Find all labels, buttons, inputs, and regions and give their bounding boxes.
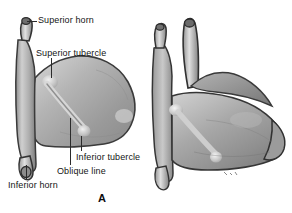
panel-a: Superior horn Superior tubercle Inferior… — [0, 0, 146, 213]
far-inferior-horn — [155, 166, 169, 190]
label-superior-horn: Superior horn — [38, 15, 94, 26]
lamina-highlight — [115, 109, 133, 123]
leader-oblique-line — [70, 118, 71, 165]
leader-inferior-horn — [26, 165, 27, 179]
far-posterior-border — [153, 45, 174, 181]
far-superior-horn-tip — [156, 24, 164, 30]
panel-letter-a: A — [98, 192, 106, 204]
near-lamina-highlight — [230, 112, 262, 128]
label-oblique-line: Oblique line — [57, 166, 106, 177]
leader-superior-tubercle — [51, 58, 52, 78]
label-inferior-tubercle: Inferior tubercle — [76, 152, 140, 163]
thyroid-cartilage-oblique-illustration — [146, 0, 292, 213]
inferior-tubercle-b — [210, 152, 222, 163]
leader-superior-horn — [27, 21, 37, 22]
label-superior-tubercle: Superior tubercle — [36, 48, 106, 59]
inferior-tubercle — [78, 125, 91, 137]
signature-mark — [224, 172, 237, 175]
near-superior-horn — [183, 19, 198, 88]
posterior-border — [16, 40, 36, 171]
label-inferior-horn: Inferior horn — [8, 180, 58, 191]
leader-inferior-tubercle — [81, 136, 82, 151]
thyroid-cartilage-figure: Superior horn Superior tubercle Inferior… — [0, 0, 292, 213]
near-superior-horn-tip — [185, 19, 195, 27]
panel-b: Laryngeal prominence (Adam's apple) B — [146, 0, 292, 213]
